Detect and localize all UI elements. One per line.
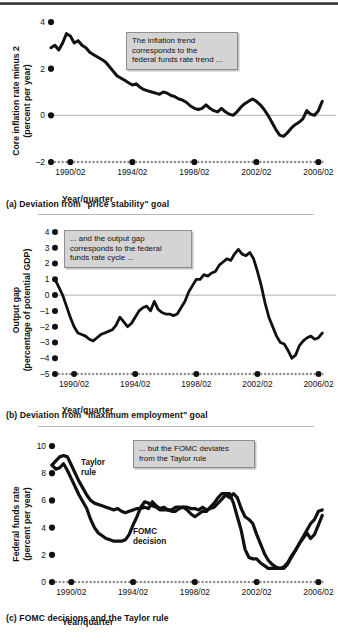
y-tick-label: 2 <box>40 64 45 74</box>
y-tick-label: 10 <box>37 441 47 451</box>
panel-a-callout: The inflation trend corresponds to the f… <box>126 32 238 70</box>
y-tick-label: 3 <box>45 243 50 253</box>
panel-a-caption: (a) Deviation from "price stability" goa… <box>6 199 169 209</box>
panel-b-callout-line2: corresponds to the federal <box>70 244 186 254</box>
series-label-fomc-decision-line2: decision <box>133 537 166 546</box>
x-tick-label: 2002/02 <box>241 167 272 177</box>
y-tick-label: –5 <box>40 369 50 379</box>
x-tick-label: 1998/02 <box>179 167 210 177</box>
series-label-fomc-decision: FOMC decision <box>133 527 166 546</box>
panel-a-callout-line1: The inflation trend <box>132 36 232 46</box>
panel-a-callout-line3: federal funds rate trend ... <box>132 55 232 65</box>
x-tick-label: 1994/02 <box>117 167 148 177</box>
panel-c-y-axis-title: Federal funds rate (percent per year) <box>11 464 32 584</box>
x-tick-label: 2002/02 <box>241 587 272 597</box>
y-tick-label: 1 <box>45 274 50 284</box>
panel-a-y-title-line1: Core inflation rate minus 2 <box>11 46 21 156</box>
panel-c-callout-line1: ... but the FOMC deviates <box>139 444 249 454</box>
panel-b-caption: (b) Deviation from "maximum employment" … <box>6 410 208 420</box>
y-tick-label: 4 <box>45 227 50 237</box>
panel-b-callout-line1: ... and the output gap <box>70 234 186 244</box>
panel-b: –5–4–3–2–1012341990/021994/021998/022002… <box>0 222 338 422</box>
panel-b-callout-line3: funds rate cycle ... <box>70 253 186 263</box>
panel-b-y-title-line2: (percentage of potential GDP) <box>22 249 32 372</box>
y-tick-label: –4 <box>40 353 50 363</box>
panel-b-separator <box>38 426 314 427</box>
y-tick-label: 4 <box>41 523 46 533</box>
x-tick-label: 1998/02 <box>181 379 212 389</box>
panel-c-caption: (c) FOMC decisions and the Taylor rule <box>6 613 169 623</box>
series-label-taylor-rule: Taylor rule <box>81 458 105 477</box>
panel-a-y-title-line2: (percent per year) <box>22 64 32 137</box>
series-label-taylor-rule-line2: rule <box>81 468 96 477</box>
x-tick-label: 2006/02 <box>303 587 334 597</box>
y-tick-label: 8 <box>41 468 46 478</box>
panel-b-callout: ... and the output gap corresponds to th… <box>64 230 192 268</box>
panel-c-y-title-line2: (percent per year) <box>22 487 32 560</box>
x-tick-label: 1990/02 <box>55 167 86 177</box>
page-top-rule <box>0 2 338 5</box>
x-tick-label: 1998/02 <box>180 587 211 597</box>
x-tick-label: 2006/02 <box>303 379 334 389</box>
series-label-fomc-decision-line1: FOMC <box>133 527 157 536</box>
panel-b-y-axis-title: Output gap (percentage of potential GDP) <box>11 234 32 386</box>
x-tick-label: 1990/02 <box>59 379 90 389</box>
figure-container: –20241990/021994/021998/022002/022006/02… <box>0 0 338 642</box>
panel-c-y-title-line1: Federal funds rate <box>11 486 21 561</box>
y-tick-label: –1 <box>40 306 50 316</box>
x-tick-label: 1994/02 <box>118 587 149 597</box>
panel-a: –20241990/021994/021998/022002/022006/02… <box>0 8 338 210</box>
x-tick-label: 2006/02 <box>303 167 334 177</box>
panel-c: 02468101990/021994/021998/022002/022006/… <box>0 432 338 637</box>
x-tick-label: 1990/02 <box>56 587 87 597</box>
panel-a-separator <box>38 214 314 215</box>
series-label-taylor-rule-line1: Taylor <box>81 458 105 467</box>
panel-a-y-axis-title: Core inflation rate minus 2 (percent per… <box>11 26 32 176</box>
y-tick-label: 2 <box>41 550 46 560</box>
series-line-fomc-decision <box>52 464 322 569</box>
y-tick-label: –2 <box>40 322 50 332</box>
y-tick-label: 4 <box>40 17 45 27</box>
y-tick-label: 0 <box>40 110 45 120</box>
y-tick-label: 6 <box>41 495 46 505</box>
y-tick-label: 0 <box>41 577 46 587</box>
y-tick-label: –3 <box>40 337 50 347</box>
y-tick-label: –2 <box>36 157 46 167</box>
panel-c-callout: ... but the FOMC deviates from the Taylo… <box>133 440 255 468</box>
panel-b-y-title-line1: Output gap <box>11 287 21 333</box>
panel-a-callout-line2: corresponds to the <box>132 46 232 56</box>
x-tick-label: 2002/02 <box>242 379 273 389</box>
y-tick-label: 2 <box>45 258 50 268</box>
panel-c-callout-line2: from the Taylor rule <box>139 454 249 464</box>
x-tick-label: 1994/02 <box>120 379 151 389</box>
y-tick-label: 0 <box>45 290 50 300</box>
